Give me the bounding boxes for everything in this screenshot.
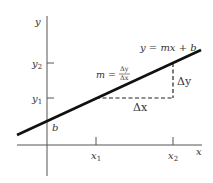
delta-x-label: Δx [133,101,148,114]
x-axis-label: x [196,146,202,157]
slope-numerator: Δy [120,65,129,73]
y-axis-label: y [34,16,41,27]
intercept-label: b [52,122,58,133]
slope-diagram: y x y2 y1 x1 x2 b y = mx + b m = Δy Δx Δ… [0,0,213,183]
line-equation: y = mx + b [139,42,197,53]
x2-label: x2 [168,150,178,163]
y2-label: y2 [31,58,42,71]
y1-label: y1 [31,93,42,106]
delta-y-label: Δy [177,75,192,88]
slope-formula-lhs: m = [96,69,116,80]
x1-label: x1 [91,150,101,163]
slope-denominator: Δx [120,74,129,82]
